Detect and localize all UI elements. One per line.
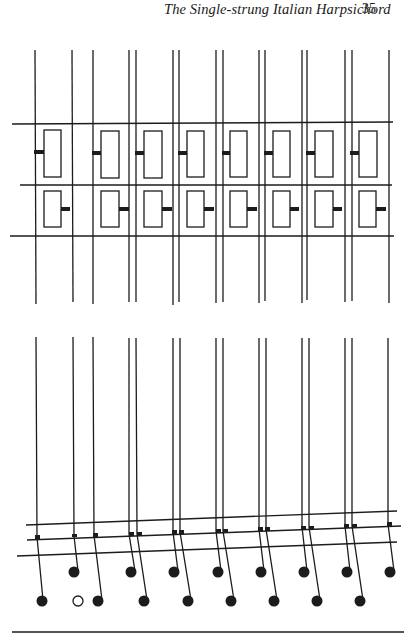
upper-rails	[10, 122, 394, 236]
note-head	[226, 596, 237, 607]
lower-strings	[36, 337, 394, 600]
string-stem	[352, 338, 363, 600]
lower-note-heads	[37, 596, 366, 607]
jack	[315, 191, 342, 227]
lower-figure	[17, 337, 401, 607]
note-head	[213, 567, 224, 578]
string-stem	[93, 337, 102, 600]
string-stem	[216, 338, 221, 571]
note-head	[93, 596, 104, 607]
rail-line	[17, 542, 397, 556]
upper-row-jacks	[34, 130, 377, 178]
jack	[101, 191, 129, 227]
note-head	[355, 596, 366, 607]
jack	[230, 191, 257, 227]
note-head	[256, 567, 267, 578]
upper-note-heads	[69, 567, 396, 578]
string-stem	[36, 337, 43, 600]
jack	[264, 131, 290, 177]
string-line	[72, 50, 73, 302]
string-stem	[345, 338, 350, 571]
string-stem	[302, 338, 307, 571]
note-head	[312, 596, 323, 607]
upper-figure	[10, 50, 394, 305]
note-head	[139, 596, 150, 607]
string-stem	[223, 338, 234, 600]
jack	[306, 131, 333, 177]
jack	[44, 191, 70, 227]
rail-markers	[35, 522, 392, 539]
jack	[135, 131, 162, 178]
jack	[178, 131, 204, 177]
jack	[359, 191, 386, 227]
note-head	[385, 567, 396, 578]
lower-row-jacks	[44, 191, 386, 227]
note-head	[183, 596, 194, 607]
string-stem	[388, 338, 394, 571]
open-note-head	[73, 596, 83, 606]
note-head	[299, 567, 310, 578]
note-head	[37, 596, 48, 607]
jack	[92, 131, 119, 178]
note-head	[126, 567, 137, 578]
note-head	[169, 567, 180, 578]
harpsichord-diagram	[0, 0, 411, 634]
jack	[144, 191, 172, 227]
jack	[273, 191, 299, 227]
note-head	[269, 596, 280, 607]
string-stem	[259, 338, 264, 571]
string-stem	[173, 338, 178, 571]
jack	[187, 191, 214, 227]
note-head	[342, 567, 353, 578]
upper-strings	[35, 50, 389, 305]
rail-line	[26, 511, 397, 525]
string-line	[35, 50, 36, 304]
string-stem	[309, 338, 320, 600]
string-stem	[266, 338, 277, 600]
string-stem	[136, 338, 147, 600]
jack	[34, 130, 61, 177]
rail-line	[12, 122, 393, 124]
string-stem	[180, 338, 191, 600]
jack	[222, 131, 247, 177]
jack	[350, 131, 377, 177]
note-head	[69, 567, 80, 578]
